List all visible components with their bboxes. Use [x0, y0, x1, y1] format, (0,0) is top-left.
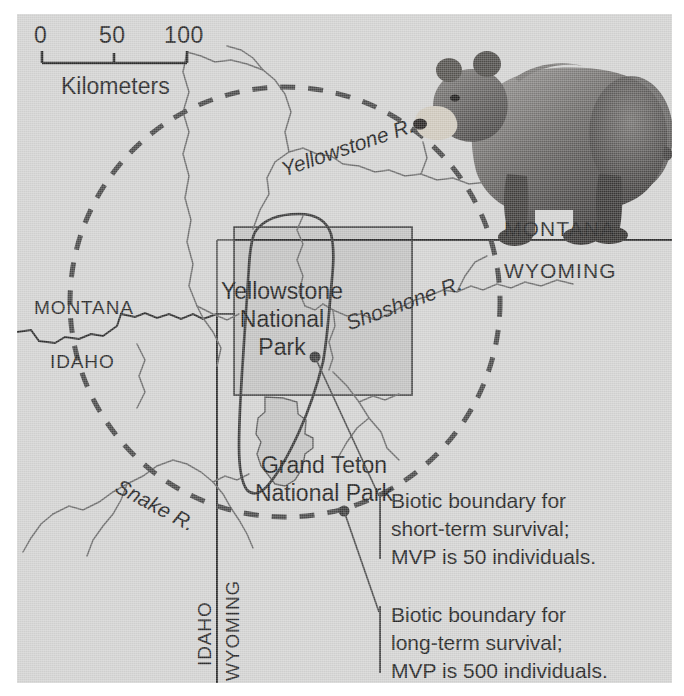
map-figure: 0 50 100 Kilometers MONTANA WYOMING MONT… [17, 14, 672, 683]
scale-tick-label-50: 50 [99, 22, 126, 49]
park-label-yellowstone-line2: National [207, 305, 357, 333]
scale-tick-label-0: 0 [34, 22, 47, 49]
state-label-idaho-left: IDAHO [50, 351, 115, 373]
state-label-montana-left: MONTANA [34, 297, 134, 319]
leader-line-long-term [344, 511, 379, 612]
callout-short-term-line1: Biotic boundary for [391, 487, 596, 515]
callout-leaders [310, 352, 381, 674]
callout-long-term: Biotic boundary for long-term survival; … [391, 601, 608, 683]
callout-long-term-line1: Biotic boundary for [391, 601, 608, 629]
scale-unit-label: Kilometers [61, 73, 170, 100]
park-label-yellowstone-line1: Yellowstone [207, 277, 357, 305]
callout-short-term-line3: MVP is 50 individuals. [391, 543, 596, 571]
callout-short-term: Biotic boundary for short-term survival;… [391, 487, 596, 571]
park-label-yellowstone-line3: Park [207, 333, 357, 361]
park-label-yellowstone: Yellowstone National Park [207, 277, 357, 361]
callout-long-term-line2: long-term survival; [391, 629, 608, 657]
callout-short-term-line2: short-term survival; [391, 515, 596, 543]
state-label-wyoming-bottom: WYOMING [222, 580, 244, 681]
state-label-montana-right: MONTANA [504, 217, 615, 241]
callout-long-term-line3: MVP is 500 individuals. [391, 657, 608, 683]
park-label-grand-teton-line1: Grand Teton [229, 451, 419, 479]
state-label-idaho-bottom: IDAHO [194, 601, 216, 666]
scale-bar-graphic [42, 51, 187, 63]
scale-tick-label-100: 100 [164, 22, 204, 49]
state-label-wyoming-right: WYOMING [504, 259, 617, 283]
